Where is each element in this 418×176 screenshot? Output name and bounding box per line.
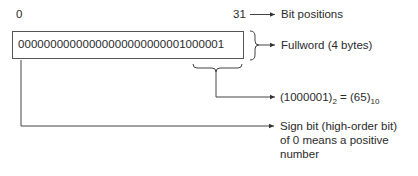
connector-lines <box>0 0 418 176</box>
sign-bit-arrow <box>21 60 274 126</box>
binary-value-arrow <box>216 72 275 97</box>
low-bits-brace <box>193 64 242 72</box>
fullword-brace <box>250 31 259 60</box>
